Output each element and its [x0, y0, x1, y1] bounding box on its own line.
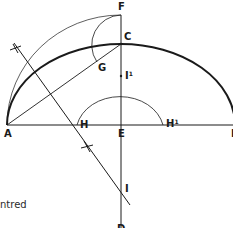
label-c: C: [124, 32, 131, 42]
label-e: E: [118, 129, 125, 139]
label-i1: I1: [125, 71, 133, 81]
label-g: G: [98, 63, 106, 73]
bisector-line: [14, 43, 130, 205]
label-h1: H1: [166, 119, 179, 129]
point-c-dot: [120, 43, 123, 46]
label-i: I: [125, 184, 129, 194]
ellipse-construction-diagram: [0, 0, 233, 228]
label-h: H: [80, 120, 88, 130]
label-a: A: [4, 129, 12, 139]
arc-eh-radius: [77, 97, 163, 125]
caption-fragment: ntred: [0, 200, 27, 210]
label-d: D: [117, 224, 125, 228]
ellipse-outline: [7, 44, 233, 125]
label-b: B: [231, 129, 233, 139]
point-i1-dot: [120, 75, 122, 77]
label-f: F: [118, 2, 125, 12]
